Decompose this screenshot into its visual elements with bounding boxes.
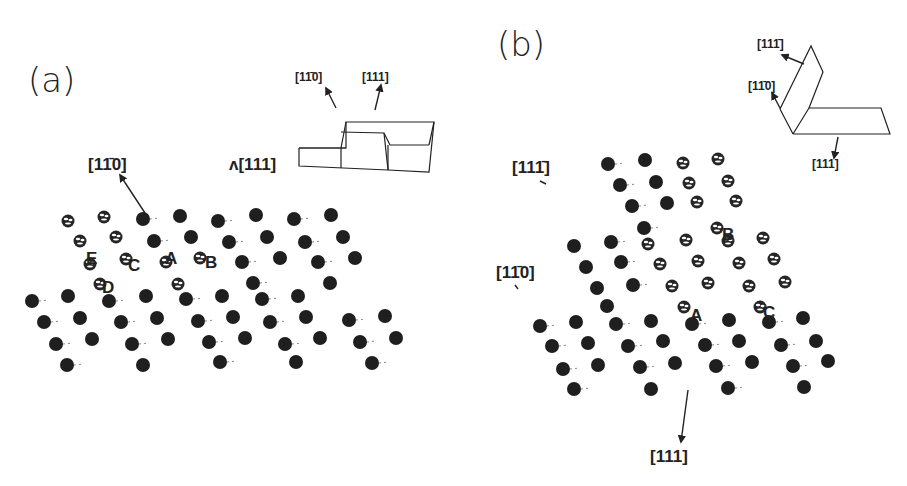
atom	[61, 289, 75, 303]
bond-line	[618, 241, 628, 242]
bond-line	[139, 343, 149, 344]
bond-line	[640, 284, 650, 285]
atom	[644, 382, 658, 396]
bond-line	[788, 344, 798, 345]
direction-label: [11̄0]	[88, 155, 127, 174]
atom	[235, 255, 249, 269]
adatom	[733, 257, 746, 270]
bond-line	[647, 366, 657, 367]
bond-line	[277, 321, 287, 322]
atom	[289, 355, 303, 369]
panel-b-step-sketch: [111̄][11̄0][111]	[748, 37, 890, 171]
atom	[147, 234, 161, 248]
adatom	[642, 238, 655, 251]
atom	[353, 335, 367, 349]
site-label-c: C	[763, 303, 775, 322]
bond-line	[116, 300, 126, 301]
atom	[660, 196, 674, 210]
adatom	[677, 157, 690, 170]
panel-a-label: (a)	[28, 60, 75, 100]
bond-line	[193, 298, 203, 299]
atom	[313, 331, 327, 345]
atom	[238, 331, 252, 345]
atom	[150, 311, 164, 325]
atom	[668, 356, 682, 370]
bond-line	[225, 220, 235, 221]
adatom	[722, 175, 735, 188]
bond-line	[301, 218, 311, 219]
atom	[73, 311, 87, 325]
atom	[125, 337, 139, 351]
site-label-b: B	[722, 225, 734, 244]
atom	[556, 362, 570, 376]
atom	[291, 289, 305, 303]
atom	[136, 212, 150, 226]
atom	[821, 354, 835, 368]
atom	[533, 319, 547, 333]
bond-line	[559, 345, 569, 346]
atom	[161, 332, 175, 346]
adatom	[692, 255, 705, 268]
atom	[722, 313, 736, 327]
site-label-a: A	[690, 306, 702, 325]
atom	[656, 334, 670, 348]
atom	[278, 337, 292, 351]
panel-b-adatoms	[642, 153, 792, 314]
inset-direction-label: [111̄]	[757, 37, 784, 51]
bond-line	[581, 388, 591, 389]
atom	[365, 356, 379, 370]
adatom	[730, 195, 743, 208]
atom	[299, 310, 313, 324]
atom	[609, 317, 623, 331]
atom	[323, 276, 337, 290]
atom	[37, 315, 51, 329]
bond-line	[712, 344, 722, 345]
atom	[621, 339, 635, 353]
sketch-edge	[341, 122, 346, 168]
bond-line	[249, 261, 259, 262]
atom	[579, 260, 593, 274]
bond-line	[269, 298, 279, 299]
atom	[25, 294, 39, 308]
adatom	[110, 231, 123, 244]
atom	[809, 334, 823, 348]
atom	[298, 235, 312, 249]
direction-label: ʌ[111]	[229, 155, 276, 174]
inset-direction-label: [111]	[362, 70, 389, 84]
arrow-icon	[326, 88, 336, 108]
atom	[649, 175, 663, 189]
direction-label: [111̄]	[512, 158, 550, 177]
atom	[179, 292, 193, 306]
atom	[85, 332, 99, 346]
adatom	[743, 280, 756, 293]
site-label-a: A	[165, 249, 177, 268]
bond-line	[128, 321, 138, 322]
arrow-icon	[120, 175, 145, 213]
atom	[600, 299, 614, 313]
adatom	[62, 215, 75, 228]
atom	[191, 314, 205, 328]
bond-line	[356, 319, 366, 320]
adatom	[74, 235, 87, 248]
direction-label: [111]	[650, 447, 688, 466]
atom	[226, 310, 240, 324]
bond-line	[570, 368, 580, 369]
bond-line	[623, 323, 633, 324]
atom	[263, 315, 277, 329]
bond-line	[150, 218, 160, 219]
atom	[273, 251, 287, 265]
panel-a: (a) [11̄0][111] [11̄0]ʌ[111] ECABD	[25, 60, 434, 372]
bond-line	[205, 320, 215, 321]
atom	[222, 235, 236, 249]
atom	[644, 314, 658, 328]
panel-a-step-sketch: [11̄0][111]	[295, 70, 434, 172]
bond-line	[639, 205, 649, 206]
atom	[581, 336, 595, 350]
atom	[637, 221, 651, 235]
bond-line	[651, 227, 661, 228]
bond-line	[325, 261, 335, 262]
atom	[202, 335, 216, 349]
bond-line	[615, 163, 625, 164]
bond-line	[260, 282, 270, 283]
bond-line	[627, 184, 637, 185]
